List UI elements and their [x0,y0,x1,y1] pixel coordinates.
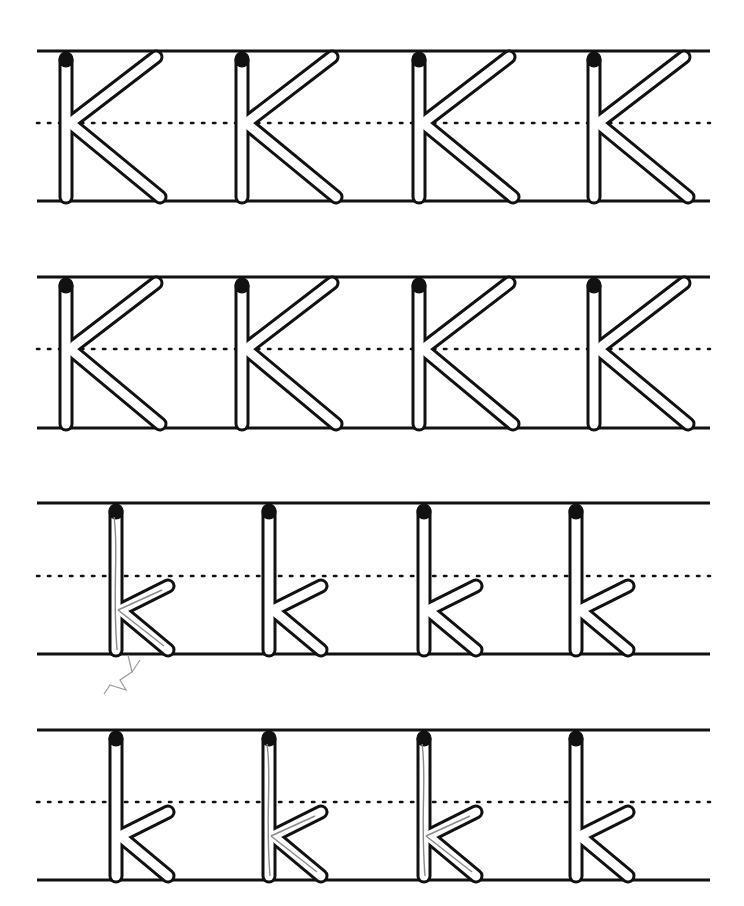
start-dot-icon [59,53,74,68]
practice-row [37,51,710,201]
uppercase-k-trace[interactable] [412,279,514,425]
start-dot-icon [109,505,124,520]
practice-row [37,503,710,654]
start-dot-icon [59,279,74,294]
lowercase-k-trace[interactable] [262,732,322,877]
practice-row [37,277,710,428]
uppercase-k-trace[interactable] [412,53,514,198]
lowercase-k-trace[interactable] [417,732,477,877]
pencil-scribble [104,655,140,694]
start-dot-icon [262,505,277,520]
start-dot-icon [412,279,427,294]
uppercase-k-trace[interactable] [59,53,161,198]
lowercase-k-trace[interactable] [569,732,629,877]
start-dot-icon [587,53,602,68]
uppercase-k-trace[interactable] [587,53,689,198]
start-dot-icon [569,505,584,520]
start-dot-icon [569,732,584,747]
practice-row [37,730,710,880]
uppercase-k-trace[interactable] [587,279,689,425]
start-dot-icon [412,53,427,68]
start-dot-icon [417,732,432,747]
start-dot-icon [235,53,250,68]
start-dot-icon [587,279,602,294]
lowercase-k-trace[interactable] [109,732,169,877]
start-dot-icon [235,279,250,294]
uppercase-k-trace[interactable] [235,53,337,198]
uppercase-k-trace[interactable] [59,279,161,425]
start-dot-icon [417,505,432,520]
start-dot-icon [262,732,277,747]
start-dot-icon [109,732,124,747]
uppercase-k-trace[interactable] [235,279,337,425]
handwriting-worksheet [0,0,744,906]
